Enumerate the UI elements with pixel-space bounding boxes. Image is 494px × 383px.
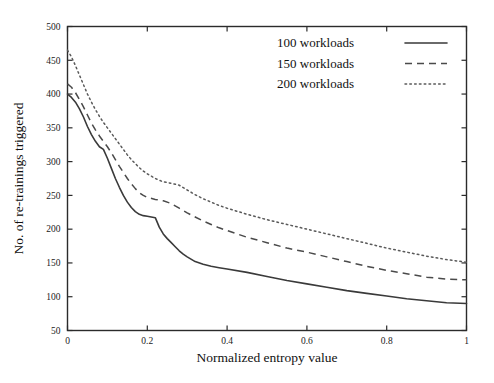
y-tick-label: 400 xyxy=(46,89,61,99)
legend-label-2: 150 workloads xyxy=(277,56,354,71)
chart-figure: 5010015020025030035040045050000.20.40.60… xyxy=(0,0,494,383)
legend-label-1: 100 workloads xyxy=(277,35,354,50)
x-tick-label: 0.2 xyxy=(141,336,153,346)
legend-label-3: 200 workloads xyxy=(277,76,354,91)
y-tick-label: 300 xyxy=(46,157,61,167)
y-tick-label: 50 xyxy=(51,326,61,336)
x-tick-label: 0.4 xyxy=(221,336,233,346)
series-lines xyxy=(68,50,467,303)
x-tick-label: 0.6 xyxy=(301,336,313,346)
series-line-solid xyxy=(68,94,467,303)
axes: 5010015020025030035040045050000.20.40.60… xyxy=(46,22,469,346)
y-tick-label: 250 xyxy=(46,191,61,201)
y-tick-label: 450 xyxy=(46,56,61,66)
y-tick-label: 150 xyxy=(46,258,61,268)
line-chart: 5010015020025030035040045050000.20.40.60… xyxy=(0,0,494,383)
x-tick-label: 0 xyxy=(65,336,70,346)
y-axis-title: No. of re-trainings triggered xyxy=(11,102,26,254)
series-line-dotted xyxy=(68,50,467,262)
y-tick-label: 100 xyxy=(46,292,61,302)
y-tick-label: 350 xyxy=(46,123,61,133)
x-tick-label: 0.8 xyxy=(381,336,393,346)
y-tick-label: 200 xyxy=(46,224,61,234)
x-axis-title: Normalized entropy value xyxy=(197,350,338,365)
x-tick-label: 1 xyxy=(464,336,469,346)
series-line-dashed xyxy=(68,84,467,280)
y-tick-label: 500 xyxy=(46,22,61,32)
chart-legend: 100 workloads150 workloads200 workloads xyxy=(277,35,447,91)
